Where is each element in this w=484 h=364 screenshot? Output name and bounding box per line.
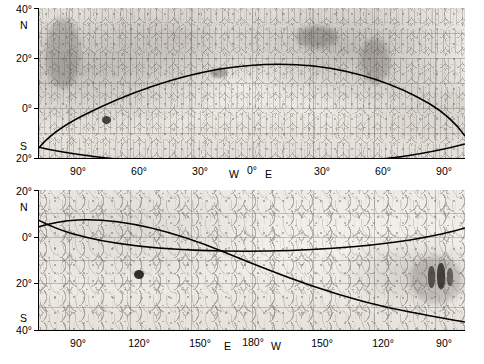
- xtick-label-60e: 60°: [375, 166, 391, 177]
- xtick-label-150w: 150°: [311, 338, 333, 349]
- xtick-label-60w: 60°: [131, 166, 147, 177]
- ytick-top: [34, 8, 38, 9]
- axis-bottom-top: [38, 158, 465, 159]
- ytick-hemisphere-south: S: [20, 313, 27, 324]
- dark-albedo-spot: [134, 270, 144, 279]
- xtick-hemisphere-east: E: [265, 169, 272, 180]
- dark-albedo-spot: [102, 116, 111, 124]
- dark-albedo-patch: [46, 18, 80, 88]
- xtick-label-120e: 120°: [128, 338, 150, 349]
- axis-bottom-bottom: [38, 330, 465, 331]
- ytick-hemisphere-south: S: [20, 141, 27, 152]
- xtick-label-180: 180°: [242, 337, 264, 348]
- map-graticule-bottom: [38, 190, 465, 330]
- ytick-top: [34, 158, 38, 159]
- axis-left-top: [38, 8, 39, 158]
- xtick-label-90e: 90°: [436, 166, 452, 177]
- ytick-hemisphere-north: N: [20, 202, 28, 213]
- axis-left-bottom: [38, 190, 39, 330]
- dark-albedo-patch: [296, 26, 338, 48]
- dark-albedo-spot: [447, 268, 453, 286]
- dark-albedo-patch: [360, 38, 390, 84]
- ytick-top: [34, 108, 38, 109]
- map-panel-top: 40° N 20° 0° S 20° 90° 60° 30° W 0° E 30…: [0, 0, 484, 182]
- xtick-label-120w: 120°: [372, 338, 394, 349]
- ytick-label-0: 0°: [2, 103, 32, 114]
- xtick-label-90e: 90°: [70, 338, 86, 349]
- map-panel-bottom: 20° N 0° 20° S 40° 90° 120° 150° E 180° …: [0, 182, 484, 364]
- xtick-label-0: 0°: [247, 165, 257, 176]
- xtick-hemisphere-east: E: [224, 341, 231, 352]
- map-image-bottom: [38, 190, 465, 330]
- xtick-label-150e: 150°: [189, 338, 211, 349]
- ytick-bottom: [34, 283, 38, 284]
- ytick-top: [34, 58, 38, 59]
- ytick-bottom: [34, 237, 38, 238]
- planetary-map-figure: 40° N 20° 0° S 20° 90° 60° 30° W 0° E 30…: [0, 0, 484, 364]
- ytick-label-40s: 40°: [2, 325, 32, 336]
- xtick-label-90w: 90°: [436, 338, 452, 349]
- ytick-label-20n: 20°: [2, 186, 32, 197]
- xtick-hemisphere-west: W: [271, 341, 281, 352]
- map-graticule-top: [38, 8, 465, 158]
- xtick-label-90w: 90°: [70, 166, 86, 177]
- ytick-label-0: 0°: [2, 232, 32, 243]
- dark-albedo-spot: [437, 263, 445, 289]
- xtick-label-30e: 30°: [314, 166, 330, 177]
- dark-albedo-patch: [210, 68, 228, 78]
- ytick-hemisphere-north: N: [20, 20, 28, 31]
- dark-albedo-spot: [428, 266, 435, 288]
- map-image-top: [38, 8, 465, 158]
- xtick-hemisphere-west: W: [229, 169, 239, 180]
- large-crater-basin: [410, 256, 462, 304]
- ytick-label-20s: 20°: [2, 153, 32, 164]
- ytick-label-20s: 20°: [2, 278, 32, 289]
- map-surface-bottom: [38, 190, 465, 330]
- map-surface-top: [38, 8, 465, 158]
- ytick-label-20n: 20°: [2, 53, 32, 64]
- ytick-bottom: [34, 190, 38, 191]
- xtick-label-30w: 30°: [192, 166, 208, 177]
- ytick-label-40n: 40°: [2, 4, 32, 15]
- ytick-bottom: [34, 330, 38, 331]
